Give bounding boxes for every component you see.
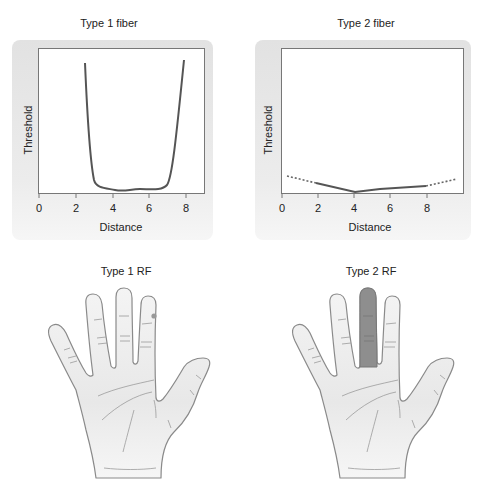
hand-type2: [293, 288, 454, 478]
threshold-curve-type1: [85, 60, 184, 191]
figure-graphics: [0, 0, 486, 486]
hand-type1: [49, 288, 210, 478]
receptive-field-dot: [151, 313, 156, 318]
receptive-field-finger: [360, 288, 377, 367]
threshold-curve-type2-dotted-right: [426, 179, 457, 186]
hand-title-type2: Type 2 RF: [291, 265, 451, 277]
hand-title-type1: Type 1 RF: [46, 265, 206, 277]
x-axis-ticks-type2: [282, 193, 427, 198]
x-axis-ticks-type1: [39, 193, 186, 198]
threshold-curve-type2-solid: [316, 183, 426, 192]
threshold-curve-type2-dotted-left: [287, 176, 316, 183]
